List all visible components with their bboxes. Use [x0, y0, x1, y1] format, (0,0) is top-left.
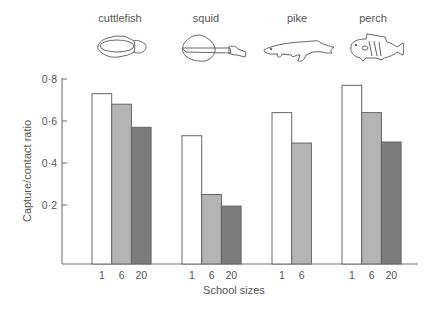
- y-axis-label: Capture/contact ratio: [21, 120, 33, 222]
- bar-perch-size-20: [381, 142, 401, 264]
- bar-chart: cuttlefishsquidpikeperch 0·20·40·60·8 Ca…: [0, 0, 434, 309]
- bar-perch-size-6: [362, 113, 382, 264]
- group-labels: cuttlefishsquidpikeperch: [98, 12, 386, 24]
- x-tick-label: 6: [369, 269, 375, 281]
- cuttlefish-icon: [98, 36, 146, 57]
- group-label-perch: perch: [359, 12, 387, 24]
- y-tick-label: 0·4: [42, 157, 57, 169]
- bar-group-squid: [182, 136, 241, 264]
- bars: [92, 85, 401, 264]
- bar-squid-size-20: [221, 206, 241, 264]
- bar-group-perch: [342, 85, 401, 264]
- group-label-squid: squid: [193, 12, 219, 24]
- bar-group-pike: [272, 113, 311, 264]
- bar-group-cuttlefish: [92, 94, 151, 264]
- x-tick-label: 1: [99, 269, 105, 281]
- bar-squid-size-1: [182, 136, 202, 264]
- group-label-pike: pike: [287, 12, 307, 24]
- y-tick-label: 0·6: [42, 115, 57, 127]
- bar-pike-size-1: [272, 113, 292, 264]
- y-tick-label: 0·8: [42, 73, 57, 85]
- x-tick-label: 20: [135, 269, 147, 281]
- bar-perch-size-1: [342, 85, 362, 264]
- bar-squid-size-6: [202, 195, 222, 265]
- x-tick-label: 1: [279, 269, 285, 281]
- y-tick-label: 0·2: [42, 199, 57, 211]
- x-tick-label: 1: [189, 269, 195, 281]
- x-tick-labels: 16201620161620: [99, 269, 397, 281]
- bar-cuttlefish-size-6: [112, 104, 132, 264]
- x-tick-label: 6: [299, 269, 305, 281]
- y-tick-labels: 0·20·40·60·8: [42, 73, 57, 211]
- bar-cuttlefish-size-1: [92, 94, 112, 264]
- x-tick-label: 20: [225, 269, 237, 281]
- x-axis-label: School sizes: [203, 284, 265, 296]
- squid-icon: [182, 35, 246, 61]
- bar-pike-size-6: [292, 143, 312, 264]
- x-tick-label: 20: [385, 269, 397, 281]
- x-tick-label: 1: [349, 269, 355, 281]
- y-axis: [62, 78, 67, 264]
- pike-icon: [264, 41, 334, 62]
- x-tick-label: 6: [119, 269, 125, 281]
- bar-cuttlefish-size-20: [131, 127, 151, 264]
- group-label-cuttlefish: cuttlefish: [98, 12, 141, 24]
- x-tick-label: 6: [209, 269, 215, 281]
- perch-icon: [351, 34, 404, 61]
